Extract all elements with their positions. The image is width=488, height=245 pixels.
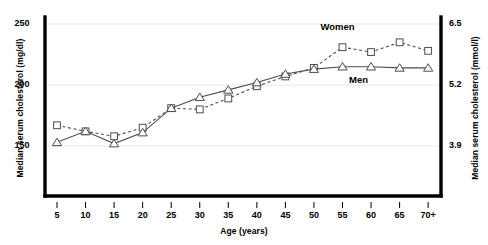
x-tick-label: 5 [42,210,72,220]
data-point-marker [339,44,346,51]
x-axis-label: Age (years) [0,226,488,236]
x-tick-label: 40 [242,210,272,220]
x-tick-label: 50 [299,210,329,220]
data-point-marker [54,122,61,129]
x-tick-label: 45 [270,210,300,220]
y-tick-label-right: 5.2 [449,79,483,89]
x-tick-label: 10 [71,210,101,220]
x-tick-label: 25 [156,210,186,220]
data-point-marker [196,106,203,113]
data-point-marker [110,139,119,146]
data-point-marker [396,39,403,46]
series-line-women [57,42,428,136]
axes-layer [45,17,441,196]
x-tick-label: 15 [99,210,129,220]
x-tick-label: 55 [328,210,358,220]
y-tick-label-left: 150 [5,140,39,150]
y-tick-label-left: 200 [5,79,39,89]
x-tick-label: 20 [128,210,158,220]
gridlines [45,24,441,146]
data-point-marker [368,49,375,56]
data-series-layer [52,39,432,147]
y-axis-label-right: Median serum cholesterol (mmol/l) [470,28,480,188]
axis-ticks [57,202,428,208]
data-point-marker [52,138,61,145]
y-tick-label-left: 250 [5,18,39,28]
y-tick-label-right: 3.9 [449,140,483,150]
data-point-marker [225,95,232,102]
y-axis-label-left: Median serum cholesterol (mg/dl) [15,28,25,188]
x-tick-label: 35 [213,210,243,220]
chart-plot-area [0,0,488,245]
data-point-marker [425,47,432,54]
y-tick-label-right: 6.5 [449,18,483,28]
x-tick-label: 70+ [413,210,443,220]
chart-figure: Median serum cholesterol (mg/dl) Median … [0,0,488,245]
x-tick-label: 60 [356,210,386,220]
x-tick-label: 30 [185,210,215,220]
x-tick-label: 65 [385,210,415,220]
series-annotation-men: Men [349,74,368,85]
series-line-men [57,67,428,144]
series-annotation-women: Women [321,21,355,32]
